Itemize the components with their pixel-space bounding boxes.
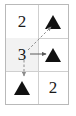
cell-r1c1[interactable]: 2: [6, 5, 38, 38]
cell-r1c2[interactable]: [38, 5, 68, 38]
cell-r1c1-number: 2: [18, 13, 27, 30]
cell-r2c2[interactable]: [38, 38, 68, 71]
triangle-icon: [45, 15, 61, 29]
cell-grid: 2 3 2: [5, 4, 69, 105]
cell-r3c2-number: 2: [49, 79, 58, 96]
grid-figure: 2 3 2: [0, 0, 76, 116]
cell-r2c1[interactable]: 3: [6, 38, 38, 71]
cell-r3c2[interactable]: 2: [38, 71, 68, 104]
triangle-icon: [45, 48, 61, 62]
cell-r2c1-number: 3: [18, 46, 27, 63]
triangle-icon: [14, 81, 30, 95]
cell-r3c1[interactable]: [6, 71, 38, 104]
